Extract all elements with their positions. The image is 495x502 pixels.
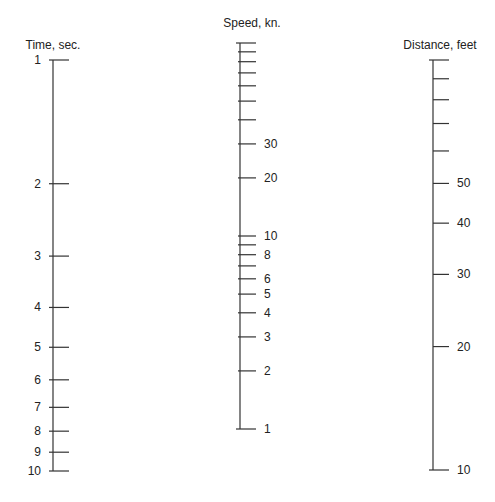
time-tick-label: 4	[34, 300, 41, 314]
time-scale: Time, sec. 12345678910	[26, 38, 81, 478]
time-tick-label: 1	[34, 53, 41, 67]
speed-tick-label: 3	[264, 330, 271, 344]
time-scale-title: Time, sec.	[26, 38, 81, 52]
speed-scale-title: Speed, kn.	[223, 16, 280, 30]
distance-scale: Distance, feet 1020304050	[403, 38, 477, 477]
time-tick-label: 2	[34, 177, 41, 191]
distance-tick-label: 30	[457, 267, 471, 281]
speed-tick-label: 10	[264, 229, 278, 243]
nomogram: Time, sec. 12345678910 Speed, kn. 123456…	[0, 0, 495, 502]
speed-tick-label: 20	[264, 171, 278, 185]
time-tick-label: 3	[34, 249, 41, 263]
time-tick-label: 8	[34, 424, 41, 438]
speed-tick-label: 30	[264, 137, 278, 151]
speed-tick-label: 5	[264, 287, 271, 301]
time-tick-label: 5	[34, 340, 41, 354]
time-tick-label: 7	[34, 400, 41, 414]
time-tick-label: 10	[28, 464, 42, 478]
distance-tick-label: 10	[457, 463, 471, 477]
distance-tick-label: 40	[457, 216, 471, 230]
time-tick-label: 9	[34, 445, 41, 459]
distance-tick-label: 20	[457, 340, 471, 354]
distance-tick-label: 50	[457, 176, 471, 190]
speed-tick-label: 6	[264, 272, 271, 286]
speed-tick-label: 1	[264, 422, 271, 436]
speed-scale: Speed, kn. 1234568102030	[223, 16, 280, 436]
distance-scale-title: Distance, feet	[403, 38, 477, 52]
speed-tick-label: 8	[264, 248, 271, 262]
time-tick-label: 6	[34, 373, 41, 387]
speed-tick-label: 2	[264, 364, 271, 378]
speed-tick-label: 4	[264, 306, 271, 320]
